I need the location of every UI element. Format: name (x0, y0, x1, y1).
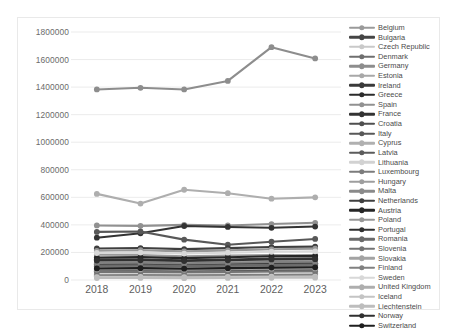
legend-item[interactable]: Netherlands (349, 196, 441, 206)
data-point (181, 275, 187, 281)
legend-item[interactable]: Hungary (349, 177, 441, 187)
legend-item[interactable]: Malta (349, 186, 441, 196)
legend-marker-icon (349, 62, 375, 71)
legend-dot-swatch (359, 92, 364, 97)
legend-item[interactable]: Slovakia (349, 254, 441, 264)
data-point (94, 258, 100, 264)
legend-marker-icon (349, 312, 375, 321)
data-point (225, 250, 231, 256)
y-axis-tick-label: 400000 (40, 220, 69, 230)
legend-item[interactable]: Denmark (349, 52, 441, 62)
legend-marker-icon (349, 206, 375, 215)
legend-item[interactable]: Liechtenstein (349, 302, 441, 312)
legend-item[interactable]: Cyprus (349, 138, 441, 148)
legend-marker-icon (349, 264, 375, 273)
data-point (94, 191, 100, 197)
data-point (269, 257, 275, 263)
data-point (312, 256, 318, 262)
x-axis-tick-label: 2023 (304, 284, 327, 295)
legend-item[interactable]: Spain (349, 100, 441, 110)
legend-dot-swatch (359, 313, 364, 318)
legend-item[interactable]: Austria (349, 206, 441, 216)
legend-dot-swatch (359, 188, 364, 193)
legend-item[interactable]: Finland (349, 263, 441, 273)
legend-item-label: Hungary (378, 177, 406, 187)
series-italy (94, 229, 318, 248)
legend-marker-icon (349, 225, 375, 234)
legend-item-label: Bulgaria (378, 33, 405, 43)
legend-dot-swatch (359, 246, 364, 251)
data-point (94, 229, 100, 235)
legend-item[interactable]: Romania (349, 234, 441, 244)
legend-item-label: Liechtenstein (378, 302, 422, 312)
series-line (97, 190, 315, 204)
legend-item[interactable]: Iceland (349, 292, 441, 302)
legend-item-label: Poland (378, 215, 401, 225)
y-axis-tick-label: 0 (64, 275, 69, 285)
legend-item[interactable]: Germany (349, 61, 441, 71)
data-point (312, 224, 318, 230)
data-point (225, 275, 231, 281)
legend-item[interactable]: Portugal (349, 225, 441, 235)
legend-item[interactable]: Luxembourg (349, 167, 441, 177)
legend-item[interactable]: Ireland (349, 81, 441, 91)
legend-item[interactable]: United Kingdom (349, 282, 441, 292)
legend-item[interactable]: France (349, 109, 441, 119)
data-point (225, 78, 231, 84)
legend-item[interactable]: Switzerland (349, 321, 441, 331)
legend-item-label: Lithuania (378, 158, 408, 168)
legend-dot-swatch (359, 160, 364, 165)
legend-item[interactable]: Greece (349, 90, 441, 100)
data-point (138, 257, 144, 263)
legend-dot-swatch (359, 275, 364, 280)
data-point (138, 201, 144, 207)
data-point (94, 87, 100, 93)
data-point (138, 229, 144, 235)
legend-item[interactable]: Belgium (349, 23, 441, 33)
legend-item[interactable]: Estonia (349, 71, 441, 81)
legend-marker-icon (349, 100, 375, 109)
chart-legend: BelgiumBulgariaCzech RepublicDenmarkGerm… (349, 23, 441, 315)
legend-dot-swatch (359, 179, 364, 184)
legend-marker-icon (349, 33, 375, 42)
line-chart-svg (75, 32, 337, 280)
x-axis-tick-label: 2018 (85, 284, 108, 295)
legend-item[interactable]: Czech Republic (349, 42, 441, 52)
data-point (181, 87, 187, 93)
legend-item[interactable]: Slovenia (349, 244, 441, 254)
legend-item[interactable]: Poland (349, 215, 441, 225)
legend-dot-swatch (359, 150, 364, 155)
legend-dot-swatch (359, 121, 364, 126)
chart-container: 0200000400000600000800000100000012000001… (17, 17, 440, 310)
legend-marker-icon (349, 187, 375, 196)
legend-item[interactable]: Latvia (349, 148, 441, 158)
legend-marker-icon (349, 119, 375, 128)
legend-item-label: Portugal (378, 225, 406, 235)
data-point (269, 239, 275, 245)
legend-item[interactable]: Bulgaria (349, 33, 441, 43)
legend-marker-icon (349, 283, 375, 292)
legend-dot-swatch (359, 35, 364, 40)
legend-marker-icon (349, 273, 375, 282)
legend-item-label: United Kingdom (378, 282, 431, 292)
legend-marker-icon (349, 23, 375, 32)
legend-item[interactable]: Croatia (349, 119, 441, 129)
legend-item[interactable]: Norway (349, 311, 441, 321)
legend-dot-swatch (359, 73, 364, 78)
legend-item-label: Germany (378, 61, 408, 71)
data-point (138, 85, 144, 91)
y-axis-tick-label: 1400000 (36, 82, 69, 92)
legend-item-label: Netherlands (378, 196, 418, 206)
legend-item-label: Austria (378, 206, 401, 216)
legend-dot-swatch (359, 54, 364, 59)
legend-item[interactable]: Lithuania (349, 158, 441, 168)
plot-area (75, 32, 337, 280)
y-axis: 0200000400000600000800000100000012000001… (18, 18, 73, 280)
legend-marker-icon (349, 254, 375, 263)
legend-marker-icon (349, 158, 375, 167)
legend-marker-icon (349, 321, 375, 330)
legend-item[interactable]: Italy (349, 129, 441, 139)
legend-marker-icon (349, 177, 375, 186)
legend-item[interactable]: Sweden (349, 273, 441, 283)
y-axis-tick-label: 200000 (40, 247, 69, 257)
